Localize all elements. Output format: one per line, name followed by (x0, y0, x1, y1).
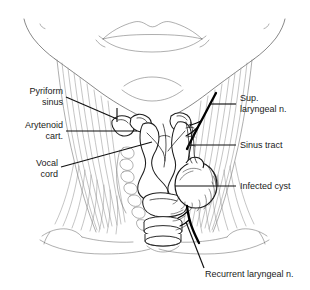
label-sup-laryngeal-n-line1: Sup. (240, 93, 259, 103)
muscle-fan-icon (230, 166, 246, 226)
muscle-fan-icon (107, 190, 110, 233)
supraclavicular-right-icon (176, 237, 227, 242)
label-pyriform-sinus-line1: Pyriform (30, 86, 64, 96)
muscle-fan-icon (235, 162, 254, 224)
gland-lobule-icon (128, 195, 141, 206)
cheek-right-icon (200, 40, 209, 47)
clavicle-left-icon (42, 229, 82, 237)
gland-lobule-icon (132, 207, 145, 218)
jaw-right-upper-icon (254, 19, 285, 59)
gland-lobule-icon (120, 159, 133, 170)
ear-right-icon (264, 24, 269, 29)
chin-shadow-icon (124, 77, 181, 86)
trachea-ring-icon (145, 236, 181, 246)
shoulder-left-icon (40, 240, 150, 254)
leader-vocal-cord (61, 142, 152, 167)
muscle-fan-icon (218, 175, 228, 230)
label-arytenoid-cart-line2: cart. (45, 131, 63, 141)
muscle-fiber-icon (101, 96, 121, 224)
gland-lobule-icon (121, 171, 134, 182)
lip-corner-left-icon (99, 36, 104, 39)
submental-crease-icon (122, 90, 183, 101)
label-vocal-cord-line1: Vocal (36, 158, 58, 168)
clavicle-right-icon (227, 229, 267, 237)
lip-corner-right-icon (202, 36, 207, 39)
label-pyriform-sinus-line2: sinus (42, 97, 64, 107)
glottis-icon (163, 152, 165, 161)
muscle-fan-icon (63, 166, 79, 226)
label-recurrent-laryngeal-n: Recurrent laryngeal n. (205, 269, 294, 279)
trachea-lower-icon (147, 246, 179, 252)
ear-left-icon (40, 24, 45, 29)
label-sinus-tract: Sinus tract (240, 140, 283, 150)
label-infected-cyst: Infected cyst (240, 181, 291, 191)
trachea-group (144, 217, 182, 252)
lip-line-icon (103, 35, 202, 40)
label-sup-laryngeal-n-line2: laryngeal n. (240, 104, 287, 114)
thyroid-notch-icon (163, 124, 166, 167)
jaw-left-upper-icon (24, 19, 55, 59)
label-arytenoid-cart-line1: Arytenoid (25, 120, 63, 130)
muscle-fan-icon (81, 175, 91, 230)
muscle-fiber-icon (80, 78, 108, 227)
anatomy-figure: Pyriform sinus Arytenoid cart. Vocal cor… (0, 0, 310, 290)
thyroid-midline-icon (159, 136, 170, 138)
lips-group (96, 22, 209, 52)
cheek-left-icon (96, 40, 105, 47)
supraclavicular-left-icon (82, 237, 133, 242)
thyroid-cartilage-left-icon (138, 123, 168, 201)
muscle-fan-icon (116, 196, 118, 234)
gland-lobule-icon (124, 183, 137, 194)
label-vocal-cord-line2: cord (40, 169, 58, 179)
lower-lip-icon (103, 39, 202, 52)
